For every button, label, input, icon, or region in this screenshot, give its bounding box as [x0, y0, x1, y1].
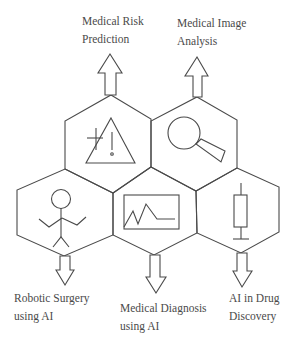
hexagon-robotic-surgery	[17, 169, 113, 256]
label-robotic-surgery: Robotic Surgery using AI	[14, 289, 90, 325]
magnifying-glass-icon	[168, 117, 225, 162]
label-line: Discovery	[229, 307, 279, 325]
arrow-up-image-icon	[185, 57, 208, 97]
label-medical-image-analysis: Medical Image Analysis	[177, 14, 246, 50]
hexagon-medical-risk-prediction	[65, 95, 151, 193]
arrow-down-diagnosis-icon	[146, 255, 166, 293]
hexagon-medical-image-analysis	[151, 97, 237, 191]
warning-triangle-icon	[86, 118, 135, 163]
label-line: Medical Diagnosis	[120, 299, 207, 317]
line-chart-monitor-icon	[124, 195, 179, 229]
label-line: Robotic Surgery	[14, 289, 90, 307]
hexagon-drug-discovery	[196, 168, 279, 253]
syringe-icon	[233, 183, 249, 239]
label-line: AI in Drug	[229, 289, 279, 307]
label-ai-drug-discovery: AI in Drug Discovery	[229, 289, 279, 325]
arrow-down-surgery-icon	[56, 256, 74, 285]
arrow-down-drug-icon	[233, 253, 252, 287]
label-line: Analysis	[177, 32, 246, 50]
ai-healthcare-hexagon-diagram: Medical Risk Prediction Medical Image An…	[0, 0, 297, 343]
hexagon-medical-diagnosis	[113, 167, 197, 255]
label-line: Medical Risk	[82, 12, 144, 30]
arrow-up-risk-icon	[98, 54, 122, 95]
label-line: Prediction	[82, 30, 144, 48]
stick-figure-robot-icon	[39, 190, 86, 248]
label-medical-risk-prediction: Medical Risk Prediction	[82, 12, 144, 48]
label-line: using AI	[14, 307, 90, 325]
label-line: using AI	[120, 317, 207, 335]
label-line: Medical Image	[177, 14, 246, 32]
label-medical-diagnosis: Medical Diagnosis using AI	[120, 299, 207, 335]
